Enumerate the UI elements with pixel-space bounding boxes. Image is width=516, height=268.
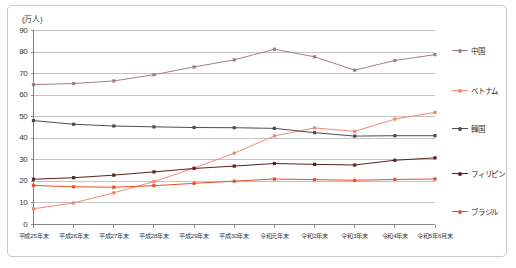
y-axis-tick-label: 60 — [10, 90, 28, 99]
line-chart-plot — [0, 0, 516, 268]
legend-item-label: 韓国 — [471, 123, 485, 134]
y-axis-tick-label: 80 — [10, 47, 28, 56]
x-axis-tick-label: 令和5年6月末 — [407, 231, 463, 240]
legend-item-1[interactable]: 中国 — [452, 45, 485, 56]
legend-swatch-icon — [452, 47, 468, 54]
series-markers — [32, 48, 437, 211]
legend-item-label: 中国 — [471, 45, 485, 56]
legend-swatch-icon — [452, 208, 468, 215]
legend-item-5[interactable]: ブラジル — [452, 206, 498, 217]
legend-item-2[interactable]: ベトナム — [452, 85, 498, 96]
legend-swatch-icon — [452, 170, 468, 177]
y-axis-tick-label: 10 — [10, 198, 28, 207]
legend-item-4[interactable]: フィリピン — [452, 168, 505, 179]
y-axis-tick-label: 40 — [10, 133, 28, 142]
y-axis-tick-label: 20 — [10, 176, 28, 185]
legend-swatch-icon — [452, 125, 468, 132]
y-axis-tick-label: 0 — [10, 220, 28, 229]
y-axis-tick-label: 30 — [10, 155, 28, 164]
legend-connectors — [435, 49, 450, 210]
y-axis-unit-label: (万人) — [22, 13, 43, 24]
y-axis-tick-label: 50 — [10, 112, 28, 121]
legend-item-3[interactable]: 韓国 — [452, 123, 485, 134]
y-axis-tick-label: 70 — [10, 69, 28, 78]
y-axis-tick-label: 90 — [10, 26, 28, 35]
legend-swatch-icon — [452, 87, 468, 94]
legend-item-label: フィリピン — [471, 168, 505, 179]
legend-item-label: ベトナム — [471, 85, 498, 96]
axis-lines — [31, 31, 34, 225]
legend-item-label: ブラジル — [471, 206, 498, 217]
